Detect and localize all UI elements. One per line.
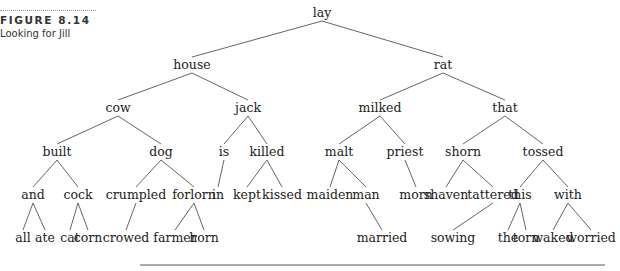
tree-node-is: is <box>219 144 229 159</box>
tree-edge <box>508 203 520 230</box>
tree-edge <box>405 160 416 187</box>
tree-edge <box>57 116 118 144</box>
tree-nodes: layhouseratcowjackmilkedthatbuiltdogiski… <box>15 5 616 245</box>
tree-node-horn: horn <box>189 230 219 245</box>
tree-edge <box>568 203 591 230</box>
tree-edge <box>57 160 78 187</box>
tree-node-corn: corn <box>74 230 103 245</box>
tree-edge <box>380 73 443 100</box>
tree-edge <box>463 160 493 187</box>
tree-node-cow: cow <box>105 100 131 115</box>
tree-edge <box>78 203 88 230</box>
tree-node-with: with <box>554 187 582 202</box>
tree-edge <box>339 116 380 144</box>
tree-edge <box>443 73 505 100</box>
tree-edge <box>126 203 136 230</box>
tree-edge <box>505 116 543 144</box>
tree-diagram: layhouseratcowjackmilkedthatbuiltdogiski… <box>0 0 620 271</box>
tree-node-jack: jack <box>233 100 261 115</box>
tree-edge <box>553 203 568 230</box>
tree-node-married: married <box>357 230 408 245</box>
tree-edge <box>194 203 204 230</box>
tree-edge <box>380 116 405 144</box>
tree-edge <box>136 160 161 187</box>
tree-edge <box>192 73 248 100</box>
tree-node-and: and <box>21 187 45 202</box>
tree-edge <box>330 160 339 187</box>
tree-edge <box>161 160 194 187</box>
tree-edge <box>463 116 505 144</box>
tree-node-house: house <box>173 57 210 72</box>
tree-node-forlorn: forlorn <box>172 187 216 202</box>
tree-node-cock: cock <box>63 187 93 202</box>
tree-edge <box>192 21 322 57</box>
tree-node-priest: priest <box>387 144 424 159</box>
tree-edge <box>446 160 463 187</box>
tree-node-sowing: sowing <box>431 230 476 245</box>
tree-node-maiden: maiden <box>307 187 354 202</box>
tree-node-ate: ate <box>35 230 55 245</box>
tree-node-milked: milked <box>359 100 402 115</box>
tree-node-in: in <box>212 187 224 202</box>
tree-node-malt: malt <box>325 144 353 159</box>
tree-edge <box>520 203 526 230</box>
tree-node-man: man <box>352 187 379 202</box>
tree-edge <box>118 116 161 144</box>
tree-edge <box>118 73 192 100</box>
tree-node-shaven: shaven <box>424 187 468 202</box>
tree-edge <box>33 203 45 230</box>
tree-edge <box>248 116 267 144</box>
tree-node-kept: kept <box>233 187 261 202</box>
tree-edge <box>33 160 57 187</box>
tree-edge <box>23 203 33 230</box>
tree-edge <box>322 21 443 57</box>
tree-edge <box>267 160 282 187</box>
tree-edge <box>175 203 194 230</box>
tree-node-tossed: tossed <box>523 144 564 159</box>
tree-node-that: that <box>492 100 518 115</box>
tree-edge <box>218 160 224 187</box>
tree-edge <box>543 160 568 187</box>
tree-node-worried: worried <box>566 230 616 245</box>
tree-edge <box>247 160 267 187</box>
tree-node-rat: rat <box>434 57 452 72</box>
tree-edge <box>453 203 493 230</box>
tree-node-killed: killed <box>250 144 285 159</box>
tree-node-all: all <box>15 230 30 245</box>
tree-node-shorn: shorn <box>445 144 481 159</box>
tree-node-built: built <box>42 144 71 159</box>
tree-node-this: this <box>508 187 532 202</box>
tree-node-dog: dog <box>149 144 173 159</box>
tree-edge <box>224 116 248 144</box>
tree-edge <box>366 203 382 230</box>
tree-node-crumpled: crumpled <box>106 187 166 202</box>
tree-edge <box>70 203 78 230</box>
tree-node-kissed: kissed <box>262 187 302 202</box>
tree-node-lay: lay <box>313 5 332 20</box>
tree-edge <box>339 160 366 187</box>
tree-node-crowed: crowed <box>103 230 150 245</box>
tree-edge <box>520 160 543 187</box>
